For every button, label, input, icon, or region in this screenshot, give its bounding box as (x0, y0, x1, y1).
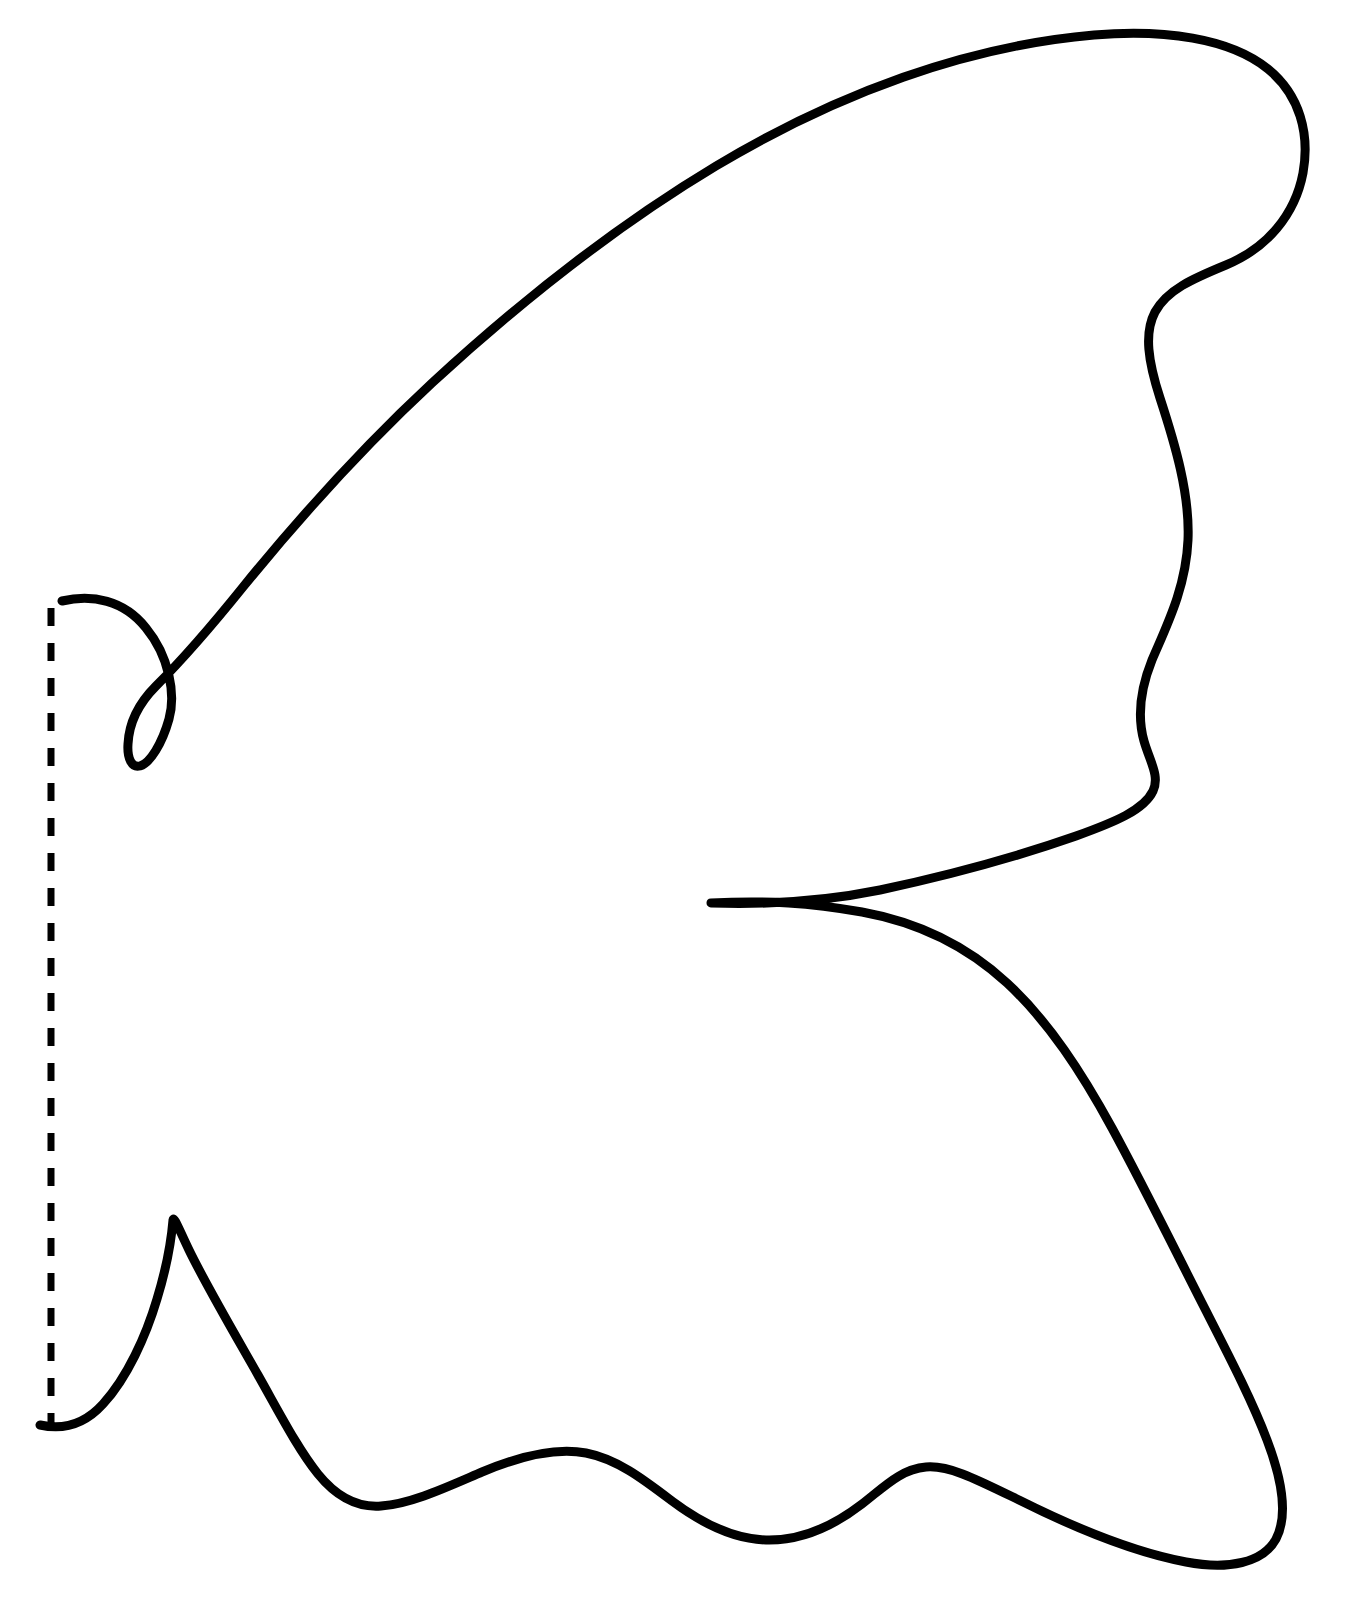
page-canvas (0, 0, 1360, 1601)
artboard-background (0, 0, 1360, 1601)
template-artboard (0, 0, 1360, 1601)
